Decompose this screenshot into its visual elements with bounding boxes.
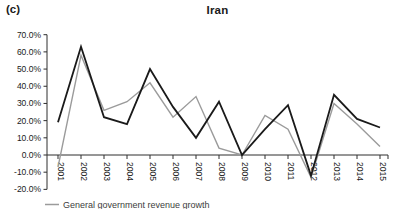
x-tick-label: 2003 — [102, 162, 112, 181]
line-chart: 70.0%60.0%50.0%40.0%30.0%20.0%10.0%0.0%-… — [0, 0, 393, 209]
x-tick-label: 2006 — [171, 162, 181, 181]
x-tick-label: 2010 — [263, 162, 273, 181]
chart-panel: (c) Iran 70.0%60.0%50.0%40.0%30.0%20.0%1… — [0, 0, 393, 209]
series-line-general-government-revenue-growth — [58, 55, 380, 177]
x-tick-label: 2008 — [217, 162, 227, 181]
y-tick-label: 30.0% — [17, 98, 42, 108]
x-tick-label: 2001 — [56, 162, 66, 181]
x-tick-label: 2015 — [378, 162, 388, 181]
y-tick-label: 50.0% — [17, 64, 42, 74]
y-tick-label: 40.0% — [17, 81, 42, 91]
y-tick-label: 60.0% — [17, 47, 42, 57]
x-tick-label: 2007 — [194, 162, 204, 181]
x-tick-label: 2009 — [240, 162, 250, 181]
x-tick-label: 2011 — [286, 162, 296, 181]
x-tick-label: 2005 — [148, 162, 158, 181]
x-tick-label: 2014 — [355, 162, 365, 181]
x-tick-label: 2002 — [79, 162, 89, 181]
y-tick-label: 10.0% — [17, 133, 42, 143]
y-tick-label: 70.0% — [17, 30, 42, 40]
y-tick-label: 20.0% — [17, 116, 42, 126]
legend-label: General government revenue growth — [63, 200, 210, 209]
y-tick-label: 0.0% — [22, 150, 42, 160]
y-tick-label: -20.0% — [14, 184, 41, 194]
x-tick-label: 2004 — [125, 162, 135, 181]
y-tick-label: -10.0% — [14, 167, 41, 177]
x-tick-label: 2013 — [332, 162, 342, 181]
